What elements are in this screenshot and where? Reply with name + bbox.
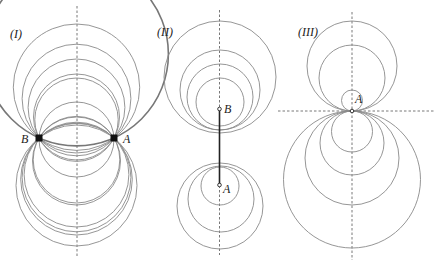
panel-2: (II) B A [157,10,276,255]
panel-1-circle [39,102,114,177]
circle-families-diagram: (I) B A (II) B A (III) [0,0,434,268]
point-b-marker [36,135,43,142]
point-a-marker [350,109,354,113]
panel-2-label: (II) [157,25,173,39]
point-a-marker [218,183,222,187]
panel-3: (III) A [278,12,434,260]
point-a-marker [111,135,118,142]
panel-2-lower-circle [188,166,254,232]
panel-1-label: (I) [10,27,22,41]
point-a-label: A [354,92,363,106]
panel-1: (I) B A [0,0,168,258]
panel-3-label: (III) [298,25,318,39]
point-b-label: B [21,132,29,146]
point-b-label: B [224,102,232,116]
point-a-label: A [122,132,131,146]
point-b-marker [218,107,222,111]
point-a-label: A [222,182,231,196]
